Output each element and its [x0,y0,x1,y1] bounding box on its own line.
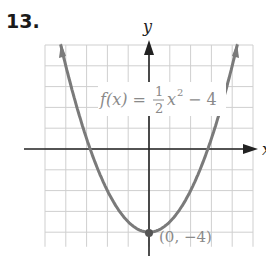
x-axis [24,144,258,154]
y-axis-label: y [142,17,153,36]
function-label: f(x) = 1 2 x 2 − 4 [98,82,226,116]
x-axis-arrow-icon [243,144,258,154]
y-axis [144,40,154,256]
svg-text:2: 2 [155,101,163,116]
svg-text:x: x [167,90,176,109]
svg-text:− 4: − 4 [188,90,217,109]
vertex-label: (0, −4) [159,228,212,246]
x-axis-label: x [262,140,266,159]
svg-text:1: 1 [155,84,163,99]
vertex-point [145,229,153,237]
y-axis-arrow-icon [144,40,154,55]
graph: x y (0, −4) f(x) = 1 2 x 2 − 4 [0,0,266,256]
svg-text:2: 2 [177,87,183,98]
svg-text:f(x) =: f(x) = [99,90,146,109]
